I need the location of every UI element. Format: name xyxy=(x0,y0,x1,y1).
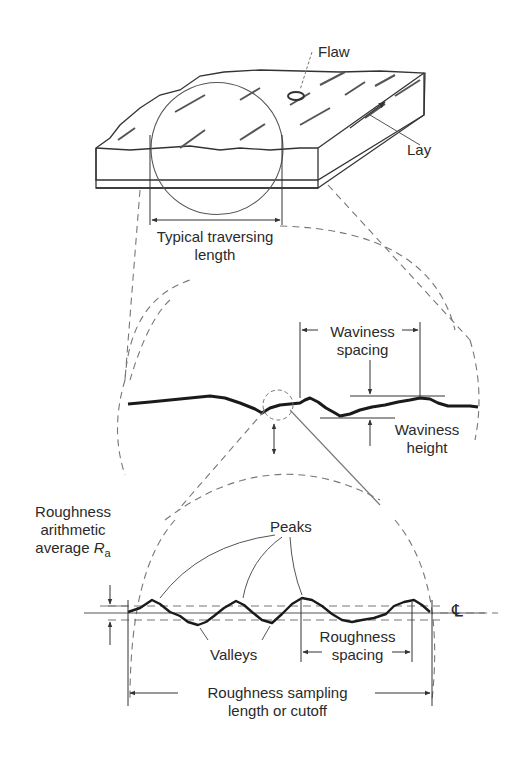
label-roughness-spacing: Roughness spacing xyxy=(305,628,410,664)
label-peaks: Peaks xyxy=(270,518,312,536)
label-traversing-length: Typical traversing length xyxy=(135,228,295,264)
label-waviness-height: Waviness height xyxy=(382,421,472,457)
ra-dimension xyxy=(100,585,128,645)
valleys-leaders xyxy=(200,626,270,640)
roughness-profile xyxy=(128,598,430,625)
label-lay: Lay xyxy=(407,141,431,159)
surface-texture-diagram: Flaw Lay Typical traversing length Wavin… xyxy=(0,0,514,760)
label-waviness-spacing: Waviness spacing xyxy=(315,323,410,359)
workpiece-block xyxy=(96,70,425,188)
label-valleys: Valleys xyxy=(210,646,257,664)
label-sampling-length: Roughness sampling length or cutoff xyxy=(180,684,375,720)
peaks-leaders xyxy=(160,535,302,598)
label-roughness-average: Roughness arithmetic average Ra xyxy=(18,503,128,562)
waviness-profile xyxy=(128,396,478,416)
label-flaw: Flaw xyxy=(318,43,350,61)
centerline-symbol: ℄ xyxy=(452,602,463,620)
expansion-lines-1 xyxy=(125,185,470,380)
